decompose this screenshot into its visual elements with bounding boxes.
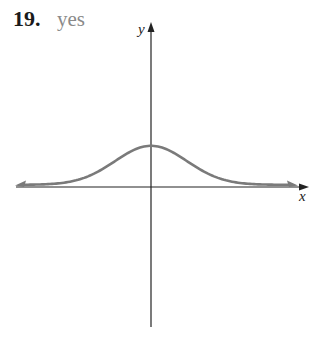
y-axis-arrow-icon: [148, 22, 155, 32]
x-axis-label: x: [298, 188, 306, 204]
bell-curve: [22, 146, 292, 185]
y-axis-label: y: [136, 21, 145, 37]
graph: y x: [0, 0, 326, 356]
curve-left-arrow-icon: [15, 181, 26, 188]
